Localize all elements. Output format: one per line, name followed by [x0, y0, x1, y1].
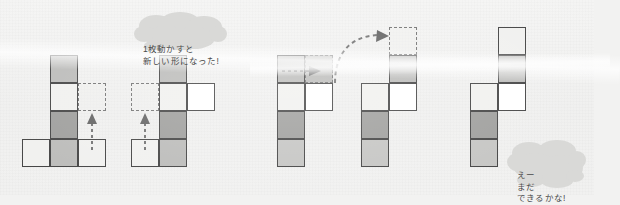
grid-cell	[277, 111, 305, 139]
grid-cell	[50, 139, 78, 167]
ghost-target-cell	[131, 83, 159, 111]
move-arrow-up-icon	[86, 111, 98, 151]
ghost-target-cell	[78, 83, 106, 111]
grid-cell	[50, 55, 78, 83]
speech-bubble-top-line2: 新しい形になった!	[143, 56, 219, 66]
speech-bubble-bottom: えーまだできるかな!	[505, 138, 587, 188]
speech-bubble-bottom-line3: できるかな!	[517, 193, 566, 203]
speech-bubble-bottom-line1: えー	[517, 170, 535, 180]
move-arrow-curved-icon	[327, 25, 397, 87]
grid-cell	[305, 83, 333, 111]
grid-cell	[361, 139, 389, 167]
grid-cell	[361, 111, 389, 139]
grid-cell	[498, 55, 526, 83]
grid-cell	[470, 83, 498, 111]
grid-cell	[498, 83, 526, 111]
grid-cell	[470, 139, 498, 167]
grid-cell	[159, 83, 187, 111]
speech-bubble-top: 1枚動かすと新しい形になった!	[132, 12, 228, 50]
grid-cell	[187, 83, 215, 111]
speech-bubble-top-line1: 1枚動かすと	[143, 44, 194, 54]
grid-cell	[389, 83, 417, 111]
grid-cell	[277, 83, 305, 111]
grid-cell	[50, 111, 78, 139]
grid-cell	[498, 27, 526, 55]
grid-cell	[22, 139, 50, 167]
grid-cell	[470, 111, 498, 139]
grid-cell	[159, 139, 187, 167]
grid-cell	[361, 83, 389, 111]
move-arrow-up-icon	[139, 111, 151, 151]
speech-bubble-top-text: 1枚動かすと新しい形になった!	[132, 35, 228, 67]
speech-bubble-bottom-text: えーまだできるかな!	[505, 161, 587, 205]
grid-cell	[277, 139, 305, 167]
grid-cell	[159, 111, 187, 139]
speech-bubble-bottom-line2: まだ	[517, 182, 535, 192]
grid-cell	[50, 83, 78, 111]
move-arrow-right-icon	[281, 63, 323, 75]
